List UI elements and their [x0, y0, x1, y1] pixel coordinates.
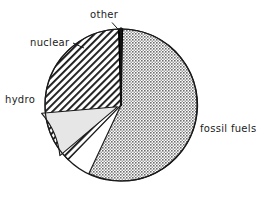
pie-chart: other nuclear hydro fossil fuels	[0, 0, 261, 198]
slice-label-hydro: hydro	[5, 94, 35, 105]
slice-label-nuclear: nuclear	[30, 37, 69, 48]
slice-label-fossil-fuels: fossil fuels	[200, 123, 256, 134]
slice-label-other: other	[90, 9, 118, 20]
pie-chart-canvas	[0, 0, 261, 198]
